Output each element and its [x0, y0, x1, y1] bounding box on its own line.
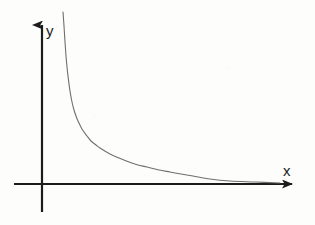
y-axis-label: y [46, 22, 54, 39]
figure-root: y x [0, 0, 315, 225]
hyperbola-curve [63, 12, 280, 183]
graph-canvas: y x [0, 0, 315, 225]
x-axis-label: x [283, 162, 291, 179]
